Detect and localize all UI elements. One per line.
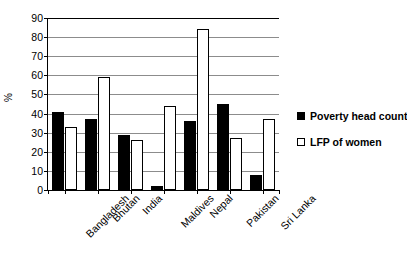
y-tick-label: 90: [3, 13, 43, 24]
x-axis-ticks: [48, 18, 279, 190]
y-tick-label: 50: [3, 89, 43, 100]
y-tick-label: 40: [3, 108, 43, 119]
plot-area: 0102030405060708090: [47, 18, 279, 191]
y-tick-label: 0: [3, 185, 43, 196]
x-tick-label: Pakistan: [244, 192, 281, 229]
x-axis-labels: BangladeshBhutanIndiaMaldivesNepalPakist…: [47, 192, 278, 252]
legend-swatch-filled-icon: [297, 112, 305, 120]
y-tick-label: 80: [3, 32, 43, 43]
y-tick-label: 70: [3, 51, 43, 62]
legend-item-lfp-of-women: LFP of women: [297, 136, 407, 148]
y-tick-label: 10: [3, 166, 43, 177]
legend-item-poverty-head-count: Poverty head count: [297, 110, 407, 122]
legend-label: Poverty head count: [310, 110, 407, 122]
legend-label: LFP of women: [310, 136, 382, 148]
y-tick-label: 60: [3, 70, 43, 81]
y-tick-label: 30: [3, 127, 43, 138]
y-tick-label: 20: [3, 147, 43, 158]
x-tick-label: Sri Lanka: [278, 192, 318, 232]
legend: Poverty head count LFP of women: [297, 110, 407, 162]
legend-swatch-open-icon: [297, 138, 305, 146]
bar-chart: % 0102030405060708090 BangladeshBhutanIn…: [0, 0, 407, 253]
x-tick-label: India: [140, 192, 165, 217]
x-tick-mark: [279, 190, 280, 194]
